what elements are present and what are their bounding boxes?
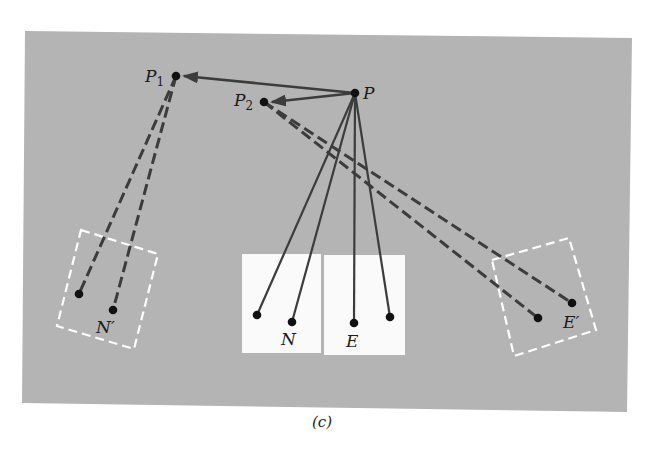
dot-e: [350, 319, 359, 328]
dot-e-prime-1: [534, 314, 543, 323]
dot-n1: [253, 311, 262, 320]
dot-e-prime: [568, 299, 577, 308]
label-n: N: [280, 329, 297, 349]
label-n-prime: N′: [95, 317, 115, 337]
dot-n-prime-1: [75, 290, 84, 299]
dot-n-prime: [109, 306, 118, 315]
label-e-prime: E′: [562, 312, 579, 332]
dot-n: [288, 318, 297, 327]
diagram-figure: P P1 P2 N E N′ E′ (c): [0, 0, 658, 463]
dot-p: [351, 89, 360, 98]
label-p: P: [362, 83, 375, 103]
dot-p2: [260, 98, 269, 107]
dot-p1: [172, 72, 181, 81]
white-box-right: [324, 255, 405, 355]
dot-e2: [386, 313, 395, 322]
label-e: E: [345, 331, 359, 351]
figure-caption: (c): [312, 413, 332, 431]
line-p-to-e: [354, 93, 355, 323]
